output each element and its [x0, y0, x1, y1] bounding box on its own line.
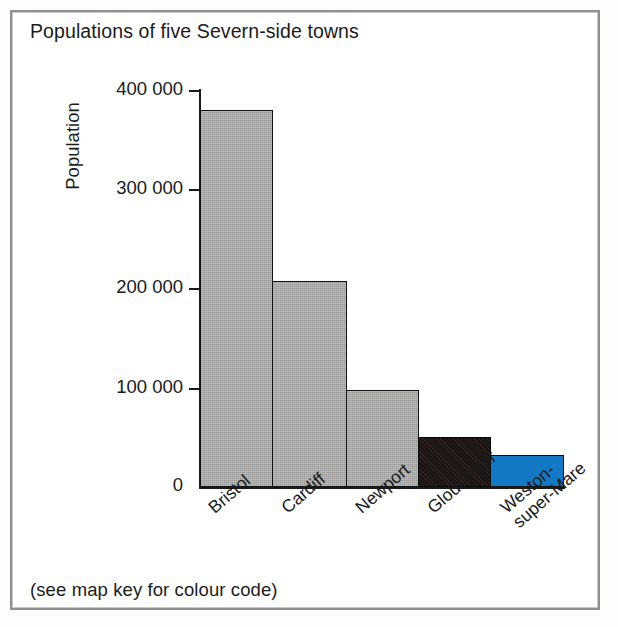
y-tick-label: 300 000 — [116, 177, 183, 199]
y-tick-label: 100 000 — [116, 376, 183, 398]
chart-caption: (see map key for colour code) — [30, 579, 278, 601]
plot-area: 400 000 300 000 200 000 100 000 0 — [199, 89, 579, 487]
y-tick-mark — [189, 388, 199, 390]
y-tick-mark — [189, 288, 199, 290]
chart-page: Populations of five Severn-side towns Po… — [0, 0, 618, 627]
bar-cardiff — [272, 281, 347, 487]
y-tick-mark — [189, 189, 199, 191]
y-tick-label: 0 — [173, 474, 183, 496]
y-tick-label: 400 000 — [116, 78, 183, 100]
y-tick-label: 200 000 — [116, 276, 183, 298]
y-tick-mark — [189, 90, 199, 92]
bar-bristol — [200, 110, 273, 487]
page-title: Populations of five Severn-side towns — [30, 20, 359, 43]
y-axis-title: Population — [62, 61, 88, 231]
